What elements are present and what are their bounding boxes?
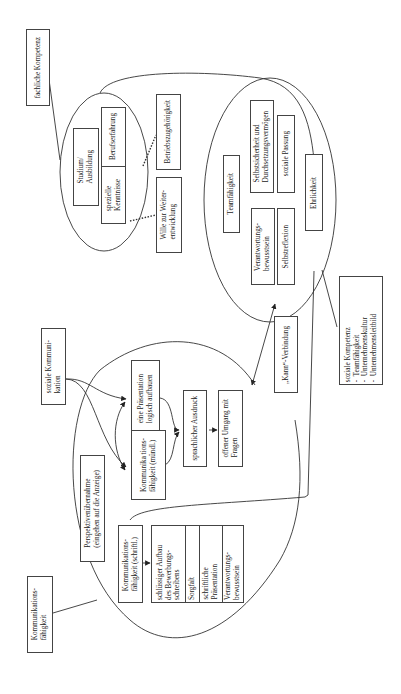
offener-umgang-box: offener Umgang mit Fragen xyxy=(218,390,243,467)
selbstreflexion-label: Selbstreflexion xyxy=(281,223,292,271)
sprachlicher-ausdruck-box: sprachlicher Ausdruck xyxy=(183,390,207,467)
schriftlich-item-1-label: schlüssiger Aufbau des Bewerbungs- schre… xyxy=(155,543,183,602)
legend-item-2: - Unternehmenskultur xyxy=(361,314,370,382)
muendlich-box: Kommunika tions- fähigkeit (mündl.) xyxy=(131,430,166,500)
teamfaehigkeit-label: Teamfähigkeit xyxy=(226,171,237,216)
fachliche-kompetenz-label: fachliche Kompetenz xyxy=(33,35,44,100)
soziale-passung-label: soziale Passung xyxy=(281,129,292,178)
legend-item-3: - Unternehmensleitbild xyxy=(370,314,379,382)
schriftlich-item-4-label: Verantwortungs- bewusstsein xyxy=(223,550,242,602)
betriebszugehoerigkeit-box: Betriebszugehörigkeit xyxy=(156,94,181,170)
teamfaehigkeit-box: Teamfähigkeit xyxy=(223,155,240,233)
kommunikationsfaehigkeit-label: Kommunikations- fähigkeit xyxy=(30,586,49,642)
ehrlichkeit-label: Ehrlichkeit xyxy=(309,175,320,211)
perspektive-label: Perspektivenübernahme (eingehen auf die … xyxy=(83,468,102,550)
legend-item-1: - Teamfähigkeit xyxy=(352,314,361,382)
schriftlich-item-2-label: Sorgfalt xyxy=(187,575,198,602)
muendlich-label: Kommunika tions- fähigkeit (mündl.) xyxy=(139,436,158,494)
soziale-passung-box: soziale Passung xyxy=(277,115,295,193)
praesentation-label: eine Präsentation logisch aufbauen xyxy=(136,372,155,425)
soziale-kommunikation-label: soziale Kommuni- kation xyxy=(44,338,63,395)
schriftlich-item-1: schlüssiger Aufbau des Bewerbungs- schre… xyxy=(152,526,185,602)
spezielle-kenntnisse-cell: spezielle Kenntnisse xyxy=(102,166,125,223)
perspektive-box: Perspektivenübernahme (eingehen auf die … xyxy=(80,455,105,562)
berufserfahrung-label: Berufserfahrung xyxy=(108,111,119,162)
selbstsicherheit-label: Selbstsicherheit und Durchsetzungsvermög… xyxy=(252,109,271,184)
kann-verbindung-box: „Kann“-Verbindung xyxy=(274,316,298,393)
ehrlichkeit-box: Ehrlichkeit xyxy=(305,154,323,231)
schriftlich-label: Kommunikations- fähigkeit (schriftl.) xyxy=(121,535,140,593)
legend-content: soziale Kompetenz - Teamfähigkeit - Unte… xyxy=(343,312,379,384)
kann-verbindung-label: „Kann“-Verbindung xyxy=(281,324,292,386)
verantwortung-box: Verantwortungs- bewusstsein xyxy=(251,208,275,285)
selbstsicherheit-box: Selbstsicherheit und Durchsetzungsvermög… xyxy=(250,100,274,193)
spezielle-kenntnisse-label: spezielle Kenntnisse xyxy=(104,177,123,213)
schriftlich-item-3: schriftliche Präsentation xyxy=(199,526,222,602)
wille-box: Wille zur Weiter- entwicklung xyxy=(156,177,182,253)
betriebszugehoerigkeit-label: Betriebszugehörigkeit xyxy=(163,98,174,165)
wille-label: Wille zur Weiter- entwicklung xyxy=(159,188,178,242)
studium-label: Studium/ Ausbildung xyxy=(76,148,95,186)
competency-diagram: fachliche Kompetenz Studium/ Ausbildung … xyxy=(0,0,401,694)
kommunikationsfaehigkeit-box: Kommunikations- fähigkeit xyxy=(27,576,53,653)
schriftlich-item-3-label: schriftliche Präsentation xyxy=(201,562,220,602)
berufserfahrung-cell: Berufserfahrung xyxy=(102,108,125,166)
soziale-kommunikation-box: soziale Kommuni- kation xyxy=(41,328,66,405)
verantwortung-label: Verantwortungs- bewusstsein xyxy=(253,221,272,273)
schriftlich-item-2: Sorgfalt xyxy=(185,526,199,602)
schriftlich-item-4: Verantwortungs- bewusstsein xyxy=(222,526,243,602)
schriftlich-items-box: schlüssiger Aufbau des Bewerbungs- schre… xyxy=(151,525,244,603)
fachliche-kompetenz-box: fachliche Kompetenz xyxy=(26,29,50,106)
offener-umgang-label: offener Umgang mit Fragen xyxy=(221,397,240,460)
selbstreflexion-box: Selbstreflexion xyxy=(277,208,295,285)
berufserfahrung-kenntnisse-box: Berufserfahrung spezielle Kenntnisse xyxy=(101,107,126,224)
studium-box: Studium/ Ausbildung xyxy=(73,128,99,206)
soziale-kompetenz-legend: soziale Kompetenz - Teamfähigkeit - Unte… xyxy=(339,276,383,385)
sprachlicher-ausdruck-label: sprachlicher Ausdruck xyxy=(190,394,201,462)
legend-title: soziale Kompetenz xyxy=(344,314,353,382)
schriftlich-box: Kommunikations- fähigkeit (schriftl.) xyxy=(118,525,143,603)
praesentation-box: eine Präsentation logisch aufbauen xyxy=(131,360,160,437)
